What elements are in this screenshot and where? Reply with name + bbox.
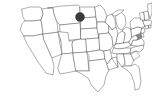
state-north-carolina <box>130 45 144 53</box>
us-map-figure: United States outline map <box>0 0 152 101</box>
state-washington <box>22 7 43 21</box>
state-colorado <box>72 39 87 53</box>
minnesota-marker-dot <box>76 13 85 22</box>
state-alabama <box>117 54 125 67</box>
state-minnesota <box>95 5 107 22</box>
us-map-svg <box>0 0 152 101</box>
state-nebraska <box>81 28 99 39</box>
state-oregon <box>20 20 43 36</box>
state-tennessee <box>112 48 131 54</box>
state-kansas <box>86 38 100 52</box>
state-new-mexico <box>73 52 89 71</box>
state-florida <box>122 64 141 90</box>
